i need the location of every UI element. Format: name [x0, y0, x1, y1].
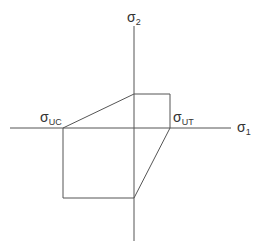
sigma2-symbol: σ	[127, 9, 136, 25]
sigma1-label: σ1	[237, 120, 251, 137]
sigma-ut-label: σUT	[173, 110, 194, 127]
sigma-uc-symbol: σ	[40, 109, 49, 125]
sigma-ut-subscript: UT	[182, 117, 194, 127]
failure-envelope	[63, 94, 170, 198]
sigma1-symbol: σ	[237, 119, 246, 135]
sigma2-label: σ2	[127, 10, 141, 27]
sigma-ut-symbol: σ	[173, 109, 182, 125]
sigma-uc-label: σUC	[40, 110, 62, 127]
diagram-graphics	[0, 0, 259, 251]
failure-envelope-diagram: σ2 σ1 σUC σUT	[0, 0, 259, 251]
sigma2-subscript: 2	[136, 17, 141, 27]
sigma-uc-subscript: UC	[49, 117, 62, 127]
sigma1-subscript: 1	[246, 127, 251, 137]
